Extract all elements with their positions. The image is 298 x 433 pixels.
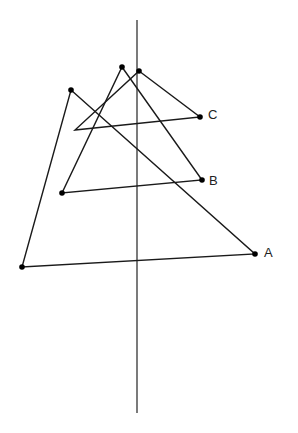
vertex-dot (68, 87, 74, 93)
label-c: C (208, 108, 217, 121)
vertex-dot (59, 190, 65, 196)
triangle-a (22, 90, 255, 267)
diagram-canvas: C B A (0, 0, 298, 433)
vertex-dot (199, 177, 205, 183)
label-a: A (264, 246, 273, 259)
vertex-dot (119, 64, 125, 70)
vertex-dot (197, 114, 203, 120)
vertex-dot (19, 264, 25, 270)
triangle-b (62, 67, 202, 193)
label-b: B (209, 174, 218, 187)
vertex-dot (136, 68, 142, 74)
triangles-figure (0, 0, 298, 433)
vertex-dot (252, 251, 258, 257)
